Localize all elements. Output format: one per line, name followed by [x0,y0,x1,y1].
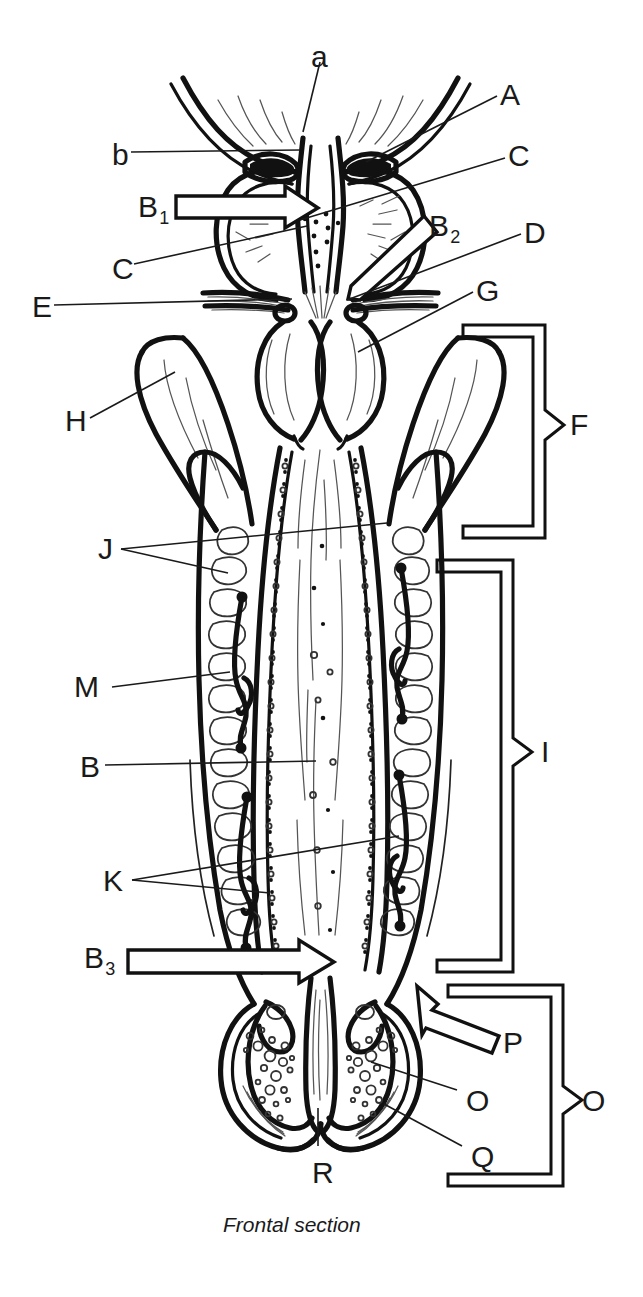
central-trunk [253,448,388,972]
label-E: E [32,292,52,322]
leader-M [112,672,230,687]
label-I: I [541,737,550,767]
leader-Q [384,1104,462,1146]
label-O-inner: O [466,1086,490,1116]
label-F: F [570,410,589,440]
label-G: G [476,276,500,306]
lateral-horns-H [137,338,504,530]
leader-H [90,372,175,418]
figure-page: .k-thick { fill:none; stroke:#111111; st… [0,0,643,1297]
leader-K2 [132,880,270,893]
label-B3: B3 [84,943,114,973]
label-B1-subscript: 1 [159,208,169,228]
label-M: M [74,672,99,702]
leader-K1 [132,836,399,880]
label-b: b [112,140,129,170]
label-A: A [500,80,520,110]
label-a: a [311,42,328,72]
label-B2-subscript: 2 [450,227,460,247]
label-R: R [312,1158,334,1188]
anatomical-diagram: .k-thick { fill:none; stroke:#111111; st… [0,0,643,1297]
label-D: D [524,218,546,248]
figure-caption: Frontal section [223,1213,361,1237]
label-B3-subscript: 3 [105,959,115,979]
label-H: H [65,406,87,436]
label-Q: Q [471,1142,495,1172]
paired-vesicles-G [257,322,384,449]
label-K: K [103,866,123,896]
lateral-muscle-bands [203,286,438,321]
label-B1: B1 [138,192,168,222]
leader-A [366,96,497,162]
basal-bulb [221,978,421,1150]
bracket-F [463,325,564,538]
outer-body-wall [190,452,451,1004]
label-B: B [80,752,100,782]
upper-horns-group [171,78,470,300]
leader-O1 [371,1062,457,1090]
label-C-upper: C [508,141,530,171]
label-O-bracket: O [582,1086,606,1116]
leader-J1 [121,523,387,549]
leader-J2 [121,549,228,573]
label-B2: B2 [429,211,459,241]
label-P: P [503,1028,523,1058]
label-C-lower: C [112,254,134,284]
label-J: J [98,534,113,564]
